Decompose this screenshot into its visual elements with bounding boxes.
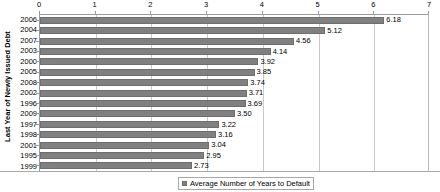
bar-value-label: 3.22 [219,121,236,129]
bar-row: 3.71 [40,88,428,98]
x-tick-label: 0 [37,1,41,9]
bar [40,27,325,34]
category-tick-mark [36,30,40,31]
bar-row: 3.92 [40,57,428,67]
bar-series: 6.185.124.564.143.923.853.743.713.693.50… [40,15,428,171]
category-tick-mark [36,20,40,21]
bar-row: 3.85 [40,67,428,77]
bar-row: 5.12 [40,25,428,35]
category-tick-mark [36,165,40,166]
bar-row: 4.14 [40,46,428,56]
category-tick-mark [36,103,40,104]
bar-row: 4.56 [40,36,428,46]
bar-value-label: 2.95 [204,152,221,160]
category-tick-mark [36,145,40,146]
bar [40,69,255,76]
bar-chart: Last Year of Newly Issued Debt 200620042… [0,0,440,192]
category-tick-mark [36,134,40,135]
bar-value-label: 3.16 [216,131,233,139]
bar-value-label: 5.12 [325,27,342,35]
bar-row: 6.18 [40,15,428,25]
chart-bottom-rule [0,171,440,172]
bar-value-label: 3.69 [246,100,263,108]
bar [40,100,246,107]
bar-value-label: 3.71 [247,89,264,97]
bar-row: 3.74 [40,77,428,87]
category-tick-mark [36,93,40,94]
x-tick-label: 5 [315,1,319,9]
legend-label: Average Number of Years to Default [190,180,310,188]
bar [40,152,204,159]
category-tick-mark [36,61,40,62]
category-tick-mark [36,155,40,156]
bar [40,48,271,55]
bar [40,90,247,97]
bar [40,79,248,86]
x-axis-tick-labels: 01234567 [39,0,429,14]
category-label: 2001 [14,140,39,151]
category-tick-mark [36,72,40,73]
legend: Average Number of Years to Default [178,177,314,190]
bar-value-label: 3.92 [258,58,275,66]
bar [40,131,216,138]
bar-value-label: 3.50 [235,110,252,118]
y-axis-title: Last Year of Newly Issued Debt [0,0,14,172]
x-tick-label: 1 [93,1,97,9]
bar-value-label: 4.56 [294,37,311,45]
bar [40,121,219,128]
bar-row: 3.69 [40,98,428,108]
category-tick-mark [36,51,40,52]
y-axis-title-text: Last Year of Newly Issued Debt [3,31,12,142]
bar-value-label: 2.73 [192,162,209,170]
bar [40,58,258,65]
category-tick-mark [36,124,40,125]
bar-row: 2.73 [40,161,428,171]
bar-row: 3.04 [40,140,428,150]
bar [40,38,294,45]
bar [40,162,192,169]
bar [40,17,384,24]
bar-row: 3.50 [40,109,428,119]
x-tick-label: 6 [371,1,375,9]
bar-row: 3.22 [40,119,428,129]
x-tick-label: 2 [148,1,152,9]
bar [40,142,209,149]
bar-value-label: 3.04 [209,141,226,149]
category-label: 1995 [14,151,39,162]
bar-value-label: 3.85 [255,68,272,76]
x-tick-label: 4 [260,1,264,9]
category-tick-mark [36,41,40,42]
bar-row: 2.95 [40,150,428,160]
bar [40,110,235,117]
bar-value-label: 4.14 [271,48,288,56]
x-tick-label: 7 [427,1,431,9]
bar-value-label: 6.18 [384,16,401,24]
x-tick-label: 3 [204,1,208,9]
category-tick-mark [36,113,40,114]
category-tick-mark [36,82,40,83]
legend-swatch-icon [182,181,187,186]
bar-value-label: 3.74 [248,79,265,87]
plot-area: 6.185.124.564.143.923.853.743.713.693.50… [39,14,429,172]
bar-row: 3.16 [40,129,428,139]
